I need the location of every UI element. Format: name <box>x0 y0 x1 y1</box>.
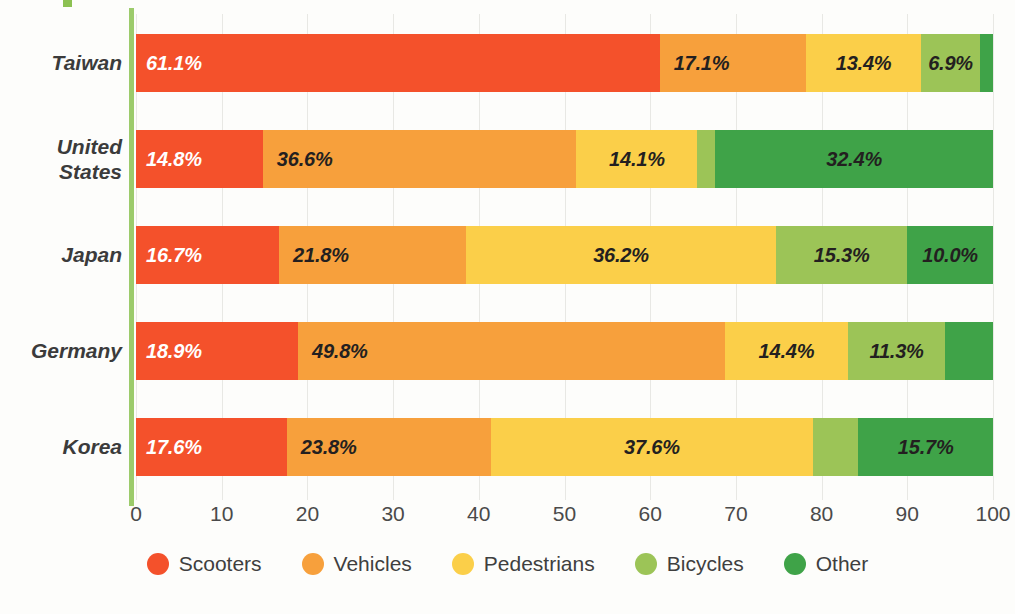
bar-segment: 14.8% <box>136 130 263 188</box>
segment-value-label: 37.6% <box>624 436 680 459</box>
segment-value-label: 10.0% <box>922 244 978 267</box>
segment-value-label: 49.8% <box>312 340 368 363</box>
segment-value-label: 14.4% <box>759 340 815 363</box>
segment-value-label: 15.3% <box>814 244 870 267</box>
segment-value-label: 36.6% <box>277 148 333 171</box>
bar-segment: 61.1% <box>136 34 660 92</box>
legend-item[interactable]: Vehicles <box>302 552 412 576</box>
bar-rows: 61.1%17.1%13.4%6.9%14.8%36.6%14.1%32.4%1… <box>136 14 993 500</box>
x-axis-tick-label: 10 <box>210 502 233 526</box>
stacked-bar: 14.8%36.6%14.1%32.4% <box>136 130 993 188</box>
x-axis-tick-label: 80 <box>810 502 833 526</box>
bar-segment: 36.2% <box>466 226 776 284</box>
bar-segment: 37.6% <box>491 418 813 476</box>
segment-value-label: 17.1% <box>674 52 730 75</box>
bar-segment: 18.9% <box>136 322 298 380</box>
segment-value-label: 15.7% <box>898 436 954 459</box>
legend-label: Other <box>816 552 869 576</box>
category-label: Japan <box>0 242 122 267</box>
x-axis-tick-label: 70 <box>724 502 747 526</box>
bar-row: 18.9%49.8%14.4%11.3% <box>136 322 993 380</box>
bar-segment: 23.8% <box>287 418 491 476</box>
segment-value-label: 6.9% <box>928 52 973 75</box>
bar-segment <box>945 322 993 380</box>
segment-value-label: 21.8% <box>293 244 349 267</box>
stacked-bar-chart: TaiwanUnitedStatesJapanGermanyKorea 61.1… <box>0 0 1015 614</box>
stacked-bar: 17.6%23.8%37.6%15.7% <box>136 418 993 476</box>
x-axis-tick-label: 60 <box>639 502 662 526</box>
bar-segment: 10.0% <box>907 226 993 284</box>
segment-value-label: 23.8% <box>301 436 357 459</box>
bar-segment <box>813 418 858 476</box>
legend-color-dot-icon <box>635 553 657 575</box>
bar-segment: 36.6% <box>263 130 577 188</box>
legend-item[interactable]: Bicycles <box>635 552 744 576</box>
legend-color-dot-icon <box>452 553 474 575</box>
legend-item[interactable]: Scooters <box>147 552 262 576</box>
bar-segment: 14.1% <box>576 130 697 188</box>
segment-value-label: 14.8% <box>146 148 202 171</box>
bar-segment <box>697 130 715 188</box>
x-axis-tick-label: 30 <box>381 502 404 526</box>
x-axis-tick-label: 50 <box>553 502 576 526</box>
bar-segment: 17.6% <box>136 418 287 476</box>
stacked-bar: 18.9%49.8%14.4%11.3% <box>136 322 993 380</box>
segment-value-label: 61.1% <box>146 52 202 75</box>
x-axis-tick-label: 20 <box>296 502 319 526</box>
bar-segment: 17.1% <box>660 34 807 92</box>
segment-value-label: 17.6% <box>146 436 202 459</box>
legend-color-dot-icon <box>302 553 324 575</box>
x-axis-tick-label: 0 <box>130 502 142 526</box>
segment-value-label: 16.7% <box>146 244 202 267</box>
bar-row: 16.7%21.8%36.2%15.3%10.0% <box>136 226 993 284</box>
legend-label: Scooters <box>179 552 262 576</box>
category-label: Korea <box>0 434 122 459</box>
bar-row: 17.6%23.8%37.6%15.7% <box>136 418 993 476</box>
segment-value-label: 32.4% <box>826 148 882 171</box>
x-axis-tick-label: 40 <box>467 502 490 526</box>
bar-segment: 13.4% <box>806 34 921 92</box>
legend-color-dot-icon <box>784 553 806 575</box>
gridline <box>993 14 994 500</box>
segment-value-label: 18.9% <box>146 340 202 363</box>
segment-value-label: 11.3% <box>869 340 923 363</box>
bar-segment: 15.7% <box>858 418 993 476</box>
bar-segment: 6.9% <box>921 34 980 92</box>
y-axis-line <box>129 8 134 506</box>
bar-segment: 11.3% <box>848 322 945 380</box>
bar-segment: 32.4% <box>715 130 993 188</box>
legend-label: Pedestrians <box>484 552 595 576</box>
x-axis-tick-label: 90 <box>896 502 919 526</box>
stacked-bar: 61.1%17.1%13.4%6.9% <box>136 34 993 92</box>
x-axis: 0102030405060708090100 <box>136 500 993 534</box>
bar-row: 14.8%36.6%14.1%32.4% <box>136 130 993 188</box>
bar-row: 61.1%17.1%13.4%6.9% <box>136 34 993 92</box>
legend-label: Vehicles <box>334 552 412 576</box>
bar-segment: 21.8% <box>279 226 466 284</box>
bar-segment: 49.8% <box>298 322 725 380</box>
chart-legend: ScootersVehiclesPedestriansBicyclesOther <box>0 552 1015 576</box>
category-label-column: TaiwanUnitedStatesJapanGermanyKorea <box>0 14 122 500</box>
legend-item[interactable]: Other <box>784 552 869 576</box>
category-label: Germany <box>0 338 122 363</box>
x-axis-tick-label: 100 <box>975 502 1010 526</box>
legend-color-dot-icon <box>147 553 169 575</box>
segment-value-label: 13.4% <box>836 52 892 75</box>
bar-segment: 15.3% <box>776 226 907 284</box>
top-crop-mark <box>63 0 72 7</box>
bar-segment <box>980 34 993 92</box>
segment-value-label: 14.1% <box>609 148 665 171</box>
legend-label: Bicycles <box>667 552 744 576</box>
category-label: UnitedStates <box>0 134 122 184</box>
plot-area: 61.1%17.1%13.4%6.9%14.8%36.6%14.1%32.4%1… <box>136 14 993 500</box>
stacked-bar: 16.7%21.8%36.2%15.3%10.0% <box>136 226 993 284</box>
segment-value-label: 36.2% <box>593 244 649 267</box>
category-label: Taiwan <box>0 50 122 75</box>
bar-segment: 16.7% <box>136 226 279 284</box>
bar-segment: 14.4% <box>725 322 848 380</box>
legend-item[interactable]: Pedestrians <box>452 552 595 576</box>
